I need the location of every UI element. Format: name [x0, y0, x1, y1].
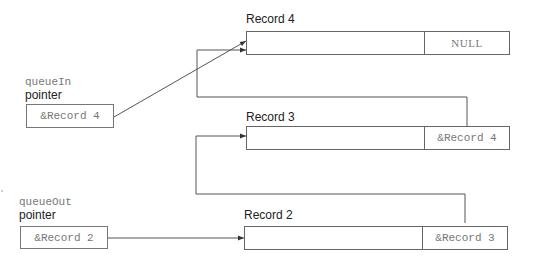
record4-title: Record 4	[246, 13, 295, 25]
queuein-caption: pointer	[25, 89, 62, 101]
record3-data-cell	[247, 127, 424, 149]
record3-box: &Record 4	[246, 126, 510, 150]
arrow-record3-next-to-record4	[197, 50, 467, 126]
queueout-caption: pointer	[19, 209, 56, 221]
record2-data-cell	[245, 227, 422, 249]
record4-next-value: NULL	[451, 37, 482, 49]
record3-next-cell: &Record 4	[424, 127, 509, 149]
record2-next-cell: &Record 3	[422, 227, 507, 249]
record4-next-cell: NULL	[424, 32, 509, 54]
record4-data-cell	[247, 32, 424, 54]
record4-box: NULL	[246, 31, 510, 55]
queuein-pointer-value: &Record 4	[40, 110, 99, 122]
queuein-pointer-box: &Record 4	[26, 104, 114, 128]
queueout-pointer-box: &Record 2	[20, 226, 108, 249]
arrow-queuein-to-record4	[114, 41, 246, 117]
queueout-name: queueOut	[19, 197, 72, 208]
record2-box: &Record 3	[244, 226, 508, 250]
record2-next-value: &Record 3	[435, 232, 494, 244]
record2-title: Record 2	[244, 209, 293, 221]
record3-next-value: &Record 4	[437, 132, 496, 144]
record3-title: Record 3	[246, 111, 295, 123]
queuein-name: queueIn	[25, 77, 71, 88]
queue-diagram: queueIn pointer &Record 4 queueOut point…	[0, 0, 533, 264]
queueout-pointer-value: &Record 2	[34, 232, 93, 244]
